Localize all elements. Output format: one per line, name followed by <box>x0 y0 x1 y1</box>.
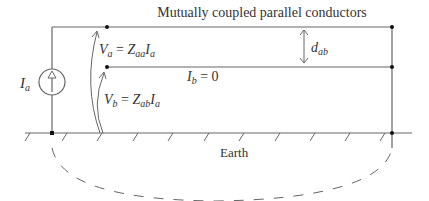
diagram-title: Mutually coupled parallel conductors <box>157 5 367 20</box>
current-source-icon <box>39 69 65 95</box>
earth-label: Earth <box>220 145 249 160</box>
node-ground-left <box>50 131 54 135</box>
node-ground-right <box>390 131 394 135</box>
earth-hatching <box>25 133 385 141</box>
distance-label: dab <box>311 40 328 57</box>
distance-arrow-icon <box>300 30 308 63</box>
voltage-a-label: Va = ZaaIa <box>99 42 155 59</box>
node-a-end <box>390 25 394 29</box>
node-a-start <box>105 25 109 29</box>
coupled-conductors-diagram: Mutually coupled parallel conductors Ia … <box>0 0 429 201</box>
node-b-end <box>390 65 394 69</box>
node-b-start <box>105 65 109 69</box>
voltage-b-label: Vb = ZabIa <box>104 92 160 109</box>
current-b-label: Ib = 0 <box>186 69 219 86</box>
source-label: Ia <box>19 75 30 93</box>
